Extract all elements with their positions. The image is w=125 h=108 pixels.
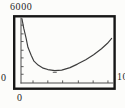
- x-max-label: 10: [117, 72, 125, 82]
- y-max-label: 6000: [10, 2, 32, 12]
- x-min-label: 0: [17, 93, 23, 103]
- window-frame: [14, 16, 114, 88]
- chart-figure: 6000 0 0 10: [0, 0, 125, 108]
- y-min-label: 0: [1, 73, 7, 83]
- curve-line: [22, 19, 112, 71]
